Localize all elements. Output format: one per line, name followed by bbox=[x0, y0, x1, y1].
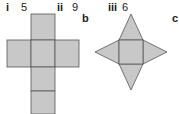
pyramid-net bbox=[95, 14, 167, 90]
nets-diagram bbox=[0, 0, 179, 114]
cube-net bbox=[7, 14, 79, 114]
